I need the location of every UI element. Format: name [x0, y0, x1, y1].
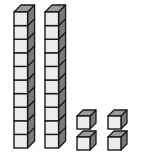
unit-cube: [77, 110, 96, 129]
tens-rod: [14, 5, 35, 148]
unit-cube: [77, 131, 96, 150]
tens-rod: [45, 5, 66, 148]
blocks-canvas: [0, 0, 160, 162]
unit-cube: [108, 110, 127, 129]
unit-cube: [108, 131, 127, 150]
